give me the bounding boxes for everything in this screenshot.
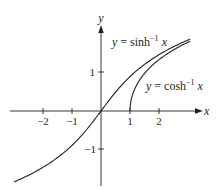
y-tick-label: 1 (90, 66, 96, 78)
sinh-curve-label: y = sinh−1x (111, 34, 168, 49)
cosh-label-x: x (197, 79, 204, 93)
y-tick-label: −1 (84, 143, 96, 155)
x-axis-label: x (203, 104, 210, 118)
cosh-inverse-curve (130, 41, 190, 111)
cosh-label-sup: −1 (186, 78, 195, 87)
cosh-label-eq: = cosh (151, 79, 186, 93)
x-tick-label: 2 (156, 115, 162, 127)
y-axis-arrow-icon (98, 25, 103, 33)
sinh-label-eq: = sinh (117, 35, 150, 49)
cosh-curve-label: y = cosh−1x (145, 78, 204, 93)
y-axis-label: y (97, 11, 104, 25)
x-tick-label: 1 (127, 115, 133, 127)
sinh-label-sup: −1 (150, 34, 159, 43)
x-axis-arrow-icon (195, 108, 203, 113)
x-tick-label: −1 (66, 115, 78, 127)
graph-inverse-hyperbolic: −2 −1 1 2 1 −1 x y y = sinh−1x y = cosh−… (0, 0, 218, 190)
x-tick-label: −2 (37, 115, 49, 127)
sinh-label-x: x (161, 35, 168, 49)
